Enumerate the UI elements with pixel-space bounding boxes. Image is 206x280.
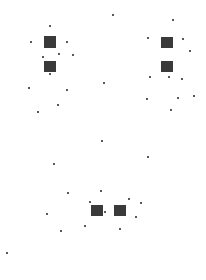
scatter-dot	[101, 140, 103, 142]
scatter-dot	[28, 87, 30, 89]
scatter-dot	[60, 230, 62, 232]
scatter-dot	[53, 163, 55, 165]
dot-pattern-figure	[0, 0, 206, 280]
dot-matrix-block	[114, 205, 126, 216]
scatter-dot	[135, 216, 137, 218]
scatter-dot	[42, 56, 44, 58]
scatter-dot	[168, 76, 170, 78]
scatter-dot	[57, 104, 59, 106]
scatter-dot	[146, 98, 148, 100]
scatter-dot	[103, 82, 105, 84]
scatter-dot	[6, 252, 8, 254]
scatter-dot	[170, 109, 172, 111]
scatter-dot	[172, 19, 174, 21]
dot-matrix-block	[161, 37, 173, 48]
dot-matrix-block	[91, 205, 103, 216]
scatter-dot	[193, 95, 195, 97]
scatter-dot	[147, 37, 149, 39]
scatter-dot	[140, 202, 142, 204]
dot-matrix-block	[44, 61, 56, 72]
scatter-dot	[149, 76, 151, 78]
scatter-dot	[128, 198, 130, 200]
scatter-dot	[46, 213, 48, 215]
scatter-dot	[182, 38, 184, 40]
scatter-dot	[89, 201, 91, 203]
scatter-dot	[66, 89, 68, 91]
scatter-dot	[58, 53, 60, 55]
scatter-dot	[112, 14, 114, 16]
scatter-dot	[49, 73, 51, 75]
scatter-dot	[100, 190, 102, 192]
scatter-dot	[49, 25, 51, 27]
scatter-dot	[72, 54, 74, 56]
scatter-dot	[147, 156, 149, 158]
scatter-dot	[177, 97, 179, 99]
scatter-dot	[67, 192, 69, 194]
scatter-dot	[37, 111, 39, 113]
scatter-dot	[119, 228, 121, 230]
dot-matrix-block	[44, 36, 56, 48]
scatter-dot	[181, 78, 183, 80]
scatter-dot	[66, 41, 68, 43]
scatter-dot	[104, 211, 106, 213]
dot-matrix-block	[161, 61, 173, 72]
scatter-dot	[84, 225, 86, 227]
scatter-dot	[189, 50, 191, 52]
scatter-dot	[30, 41, 32, 43]
